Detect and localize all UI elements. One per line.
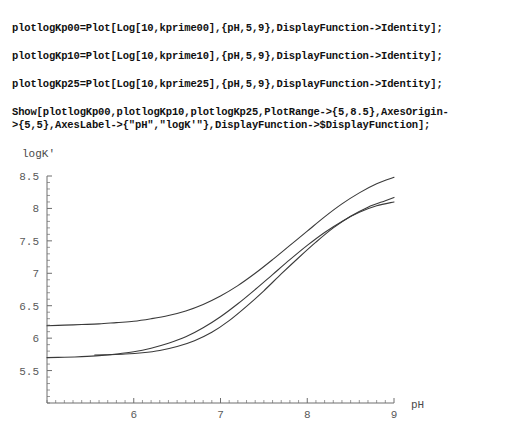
curve-plotlogkp10 <box>95 197 394 355</box>
y-axis: 5.566.577.588.5 <box>19 171 52 403</box>
x-axis: 6789 <box>47 398 397 421</box>
x-tick-label: 9 <box>391 409 398 421</box>
y-tick-label: 6.5 <box>19 301 39 313</box>
plot-output-graphic[interactable]: 5.566.577.588.5 6789 logK' pH <box>0 140 460 430</box>
notebook-window: plotlogKp00=Plot[Log[10,kprime00],{pH,5,… <box>0 0 510 442</box>
code-cell-show[interactable]: Show[plotlogKp00,plotlogKp10,plotlogKp25… <box>12 106 449 132</box>
y-tick-label: 5.5 <box>19 366 39 378</box>
code-cell-plotlogkp25[interactable]: plotlogKp25=Plot[Log[10,kprime25],{pH,5,… <box>12 78 443 91</box>
curve-plotlogkp25 <box>47 202 394 358</box>
x-axis-label: pH <box>411 399 424 411</box>
y-tick-label: 8.5 <box>19 171 39 183</box>
x-tick-label: 8 <box>304 409 311 421</box>
code-cell-plotlogkp10[interactable]: plotlogKp10=Plot[Log[10,kprime10],{pH,5,… <box>12 50 443 63</box>
curve-plotlogkp00 <box>47 177 394 326</box>
x-tick-label: 7 <box>217 409 224 421</box>
plot-curves <box>47 177 394 357</box>
y-tick-label: 7 <box>32 268 39 280</box>
code-cell-plotlogkp00[interactable]: plotlogKp00=Plot[Log[10,kprime00],{pH,5,… <box>12 22 443 35</box>
plot-svg: 5.566.577.588.5 6789 logK' pH <box>0 140 460 430</box>
y-tick-label: 8 <box>32 203 39 215</box>
y-axis-label: logK' <box>22 148 55 160</box>
x-tick-label: 6 <box>130 409 137 421</box>
y-tick-label: 6 <box>32 333 39 345</box>
y-tick-label: 7.5 <box>19 236 39 248</box>
